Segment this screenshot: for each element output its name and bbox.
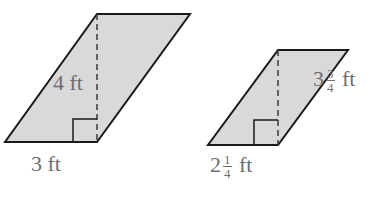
small-base-label: 214 ft: [210, 153, 252, 180]
small-height-label: 334 ft: [313, 67, 355, 94]
small-height-whole: 3: [313, 66, 324, 91]
small-base-unit: ft: [239, 152, 252, 177]
small-base-fraction: 14: [223, 153, 232, 180]
large-base-label: 3 ft: [31, 153, 61, 175]
large-parallelogram: [5, 14, 190, 142]
small-base-whole: 2: [210, 152, 221, 177]
small-height-fraction: 34: [326, 67, 335, 94]
small-height-unit: ft: [342, 66, 355, 91]
large-height-label: 4 ft: [53, 72, 83, 94]
small-parallelogram: [208, 50, 348, 145]
